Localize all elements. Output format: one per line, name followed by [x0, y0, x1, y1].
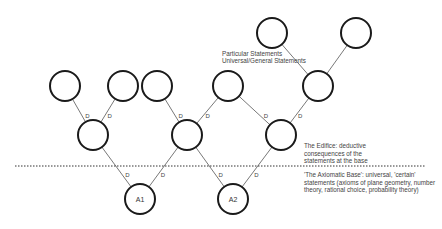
deduction-label: D: [107, 113, 112, 119]
axiomatic-line-1: 'The Axiomatic Base': universal, 'certai…: [304, 171, 435, 179]
node-m2: [172, 120, 202, 150]
universal-label: Universal/General Statements: [222, 57, 306, 65]
edifice-line-1: The Edifice: deductive: [304, 142, 368, 150]
deduction-label: D: [254, 172, 259, 178]
node-t2: [341, 18, 371, 48]
axiomatic-line-3: theory, rational choice, probability the…: [304, 186, 435, 194]
axiomatic-base-note: 'The Axiomatic Base': universal, 'certai…: [304, 171, 435, 194]
deduction-label: D: [219, 172, 224, 178]
edifice-line-3: statements at the base: [304, 157, 368, 165]
node-t1: [257, 18, 287, 48]
node-m1: [78, 120, 108, 150]
diagram-canvas: DDDDDDDDDD A1A2: [0, 0, 442, 229]
node-label-a1: A1: [136, 196, 145, 203]
node-c5: [303, 71, 333, 101]
deduction-label: D: [298, 113, 303, 119]
deduction-label: D: [206, 113, 211, 119]
deduction-label: D: [125, 172, 130, 178]
node-label-a2: A2: [229, 196, 238, 203]
edifice-note: The Edifice: deductive consequences of t…: [304, 142, 368, 165]
edifice-line-2: consequences of the: [304, 150, 368, 158]
particular-statements-label: Particular Statements Universal/General …: [222, 50, 306, 64]
node-c1: [50, 71, 80, 101]
deduction-label: D: [179, 113, 184, 119]
node-c4: [213, 71, 243, 101]
node-c3: [142, 71, 172, 101]
node-m3: [266, 120, 296, 150]
deduction-label: D: [264, 113, 269, 119]
deduction-label: D: [161, 172, 166, 178]
node-c2: [108, 71, 138, 101]
axiomatic-line-2: statements (axioms of plane geometry, nu…: [304, 179, 435, 187]
deduction-label: D: [85, 113, 90, 119]
